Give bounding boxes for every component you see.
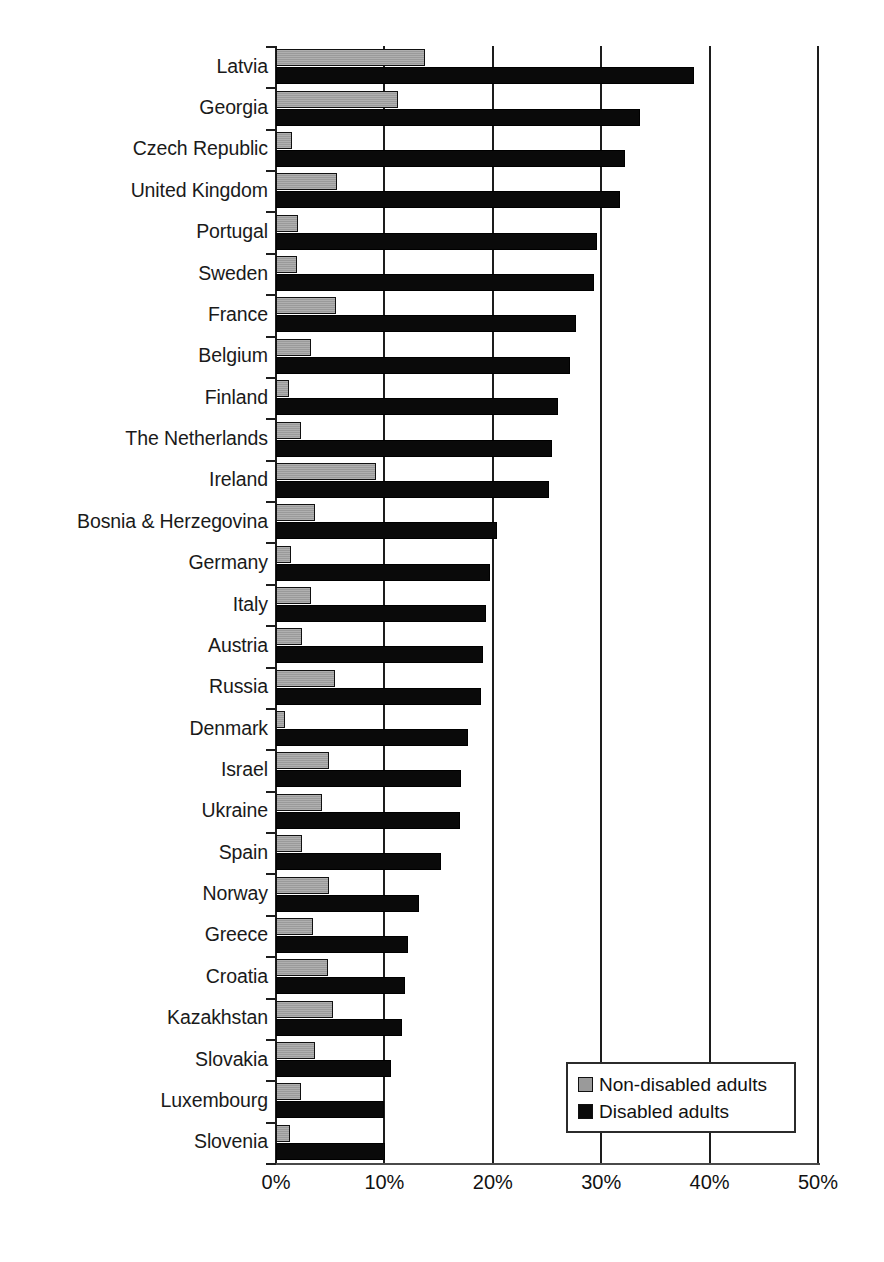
y-tick-kazakhstan — [266, 998, 276, 1000]
bar-non-disabled-croatia — [276, 959, 328, 976]
bar-disabled-austria — [276, 646, 483, 663]
legend-item-black: Disabled adults — [578, 1098, 794, 1125]
bar-disabled-sweden — [276, 274, 594, 291]
y-tick-russia — [266, 667, 276, 669]
bar-non-disabled-united-kingdom — [276, 173, 337, 190]
category-label-slovenia: Slovenia — [0, 1132, 268, 1152]
bar-non-disabled-denmark — [276, 711, 285, 728]
bar-non-disabled-russia — [276, 670, 335, 687]
category-label-kazakhstan: Kazakhstan — [0, 1008, 268, 1028]
bar-disabled-the-netherlands — [276, 440, 552, 457]
bar-disabled-ireland — [276, 481, 549, 498]
y-tick-italy — [266, 584, 276, 586]
bar-disabled-kazakhstan — [276, 1019, 402, 1036]
bar-non-disabled-slovakia — [276, 1042, 315, 1059]
bar-non-disabled-italy — [276, 587, 311, 604]
gridline-40% — [709, 46, 711, 1163]
y-tick-austria — [266, 625, 276, 627]
bar-non-disabled-finland — [276, 380, 289, 397]
legend-swatch-icon-gray — [578, 1077, 593, 1092]
y-tick-norway — [266, 873, 276, 875]
y-tick-ukraine — [266, 791, 276, 793]
y-tick-france — [266, 294, 276, 296]
legend-swatch-icon-black — [578, 1104, 593, 1119]
plot-area — [276, 46, 818, 1163]
bar-non-disabled-slovenia — [276, 1125, 290, 1142]
y-tick-latvia — [266, 46, 276, 48]
y-tick-greece — [266, 915, 276, 917]
legend-label: Non-disabled adults — [599, 1075, 767, 1094]
y-tick-slovakia — [266, 1039, 276, 1041]
gridline-20% — [492, 46, 494, 1163]
category-label-israel: Israel — [0, 760, 268, 780]
bar-non-disabled-czech-republic — [276, 132, 292, 149]
bar-disabled-norway — [276, 895, 419, 912]
category-label-austria: Austria — [0, 636, 268, 656]
bar-non-disabled-luxembourg — [276, 1083, 301, 1100]
category-label-united-kingdom: United Kingdom — [0, 181, 268, 201]
x-axis-line — [274, 1163, 820, 1165]
bar-disabled-belgium — [276, 357, 570, 374]
category-label-ireland: Ireland — [0, 470, 268, 490]
bar-non-disabled-germany — [276, 546, 291, 563]
bar-disabled-germany — [276, 564, 490, 581]
y-tick-luxembourg — [266, 1080, 276, 1082]
category-label-france: France — [0, 305, 268, 325]
category-label-the-netherlands: The Netherlands — [0, 429, 268, 449]
y-tick-the-netherlands — [266, 418, 276, 420]
y-tick-belgium — [266, 336, 276, 338]
y-tick-israel — [266, 749, 276, 751]
bar-disabled-italy — [276, 605, 486, 622]
bar-disabled-georgia — [276, 109, 640, 126]
x-tick-label-0pct: 0% — [262, 1172, 291, 1192]
chart-legend: Non-disabled adultsDisabled adults — [566, 1062, 796, 1133]
y-tick-slovenia — [266, 1122, 276, 1124]
category-label-luxembourg: Luxembourg — [0, 1091, 268, 1111]
bar-non-disabled-portugal — [276, 215, 298, 232]
bar-disabled-portugal — [276, 233, 597, 250]
bar-non-disabled-bosnia-herzegovina — [276, 504, 315, 521]
y-tick-croatia — [266, 956, 276, 958]
bar-non-disabled-kazakhstan — [276, 1001, 333, 1018]
category-axis-labels: LatviaGeorgiaCzech RepublicUnited Kingdo… — [0, 46, 268, 1163]
y-tick-sweden — [266, 253, 276, 255]
category-label-ukraine: Ukraine — [0, 801, 268, 821]
category-label-belgium: Belgium — [0, 346, 268, 366]
category-label-norway: Norway — [0, 884, 268, 904]
bar-disabled-slovakia — [276, 1060, 391, 1077]
bar-disabled-bosnia-herzegovina — [276, 522, 497, 539]
bar-non-disabled-norway — [276, 877, 329, 894]
bar-disabled-denmark — [276, 729, 468, 746]
bar-disabled-czech-republic — [276, 150, 625, 167]
category-label-finland: Finland — [0, 388, 268, 408]
bar-non-disabled-israel — [276, 752, 329, 769]
bar-non-disabled-sweden — [276, 256, 297, 273]
bar-disabled-ukraine — [276, 812, 460, 829]
legend-item-gray: Non-disabled adults — [578, 1071, 794, 1098]
y-tick-ireland — [266, 460, 276, 462]
bar-disabled-israel — [276, 770, 461, 787]
y-tick-spain — [266, 832, 276, 834]
bar-non-disabled-austria — [276, 628, 302, 645]
bar-disabled-greece — [276, 936, 408, 953]
y-tick-finland — [266, 377, 276, 379]
x-tick-label-10pct: 10% — [364, 1172, 404, 1192]
x-tick-label-40pct: 40% — [690, 1172, 730, 1192]
bar-disabled-russia — [276, 688, 481, 705]
bar-non-disabled-greece — [276, 918, 313, 935]
bar-disabled-croatia — [276, 977, 405, 994]
bar-non-disabled-the-netherlands — [276, 422, 301, 439]
bar-disabled-united-kingdom — [276, 191, 620, 208]
bar-non-disabled-georgia — [276, 91, 398, 108]
category-label-czech-republic: Czech Republic — [0, 139, 268, 159]
category-label-portugal: Portugal — [0, 222, 268, 242]
legend-label: Disabled adults — [599, 1102, 729, 1121]
bar-non-disabled-belgium — [276, 339, 311, 356]
horizontal-bar-chart: LatviaGeorgiaCzech RepublicUnited Kingdo… — [0, 0, 884, 1262]
category-label-germany: Germany — [0, 553, 268, 573]
bar-disabled-luxembourg — [276, 1101, 384, 1118]
category-label-italy: Italy — [0, 595, 268, 615]
y-tick-czech-republic — [266, 129, 276, 131]
category-label-slovakia: Slovakia — [0, 1050, 268, 1070]
category-label-croatia: Croatia — [0, 967, 268, 987]
